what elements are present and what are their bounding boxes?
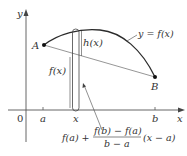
fx-label: f(x) bbox=[48, 65, 66, 76]
curve-label-leader bbox=[127, 35, 137, 41]
formula-leader bbox=[84, 85, 102, 130]
point-a bbox=[42, 43, 46, 47]
point-label-b: B bbox=[150, 81, 158, 92]
vertical-strip bbox=[73, 29, 80, 111]
formula-lead: f(a) + bbox=[61, 132, 90, 143]
point-label-a: A bbox=[31, 40, 39, 51]
x-axis-arrow-icon bbox=[178, 108, 185, 113]
secant-formula: f(a) + f(b) − f(a) b − a (x − a) bbox=[61, 125, 176, 149]
y-axis-arrow-icon bbox=[24, 9, 29, 16]
formula-tail: (x − a) bbox=[143, 132, 176, 143]
curve-label: y = f(x) bbox=[137, 28, 174, 39]
point-b bbox=[153, 75, 157, 79]
height-label: h(x) bbox=[83, 37, 103, 48]
tick-label-x: x bbox=[73, 113, 79, 124]
origin-label: 0 bbox=[17, 113, 23, 124]
tick-label-a: a bbox=[40, 113, 46, 124]
formula-denominator: b − a bbox=[104, 138, 130, 149]
formula-numerator: f(b) − f(a) bbox=[93, 125, 142, 136]
mvt-diagram: y x 0 a x b A B y = f(x) h(x) f(x) f(a) … bbox=[0, 0, 187, 156]
formula-leader-arrow-icon bbox=[83, 83, 87, 88]
x-axis-label: x bbox=[177, 113, 183, 124]
y-axis-label: y bbox=[16, 8, 23, 19]
tick-label-b: b bbox=[152, 113, 158, 124]
